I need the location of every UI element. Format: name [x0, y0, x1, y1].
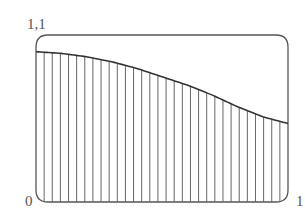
label-origin: 0 [25, 194, 33, 209]
vertical-lines [44, 52, 280, 202]
function-curve [36, 52, 288, 124]
diagram-canvas [0, 0, 305, 221]
label-x-end: 1 [296, 194, 304, 209]
label-top-left: 1,1 [27, 17, 46, 32]
rounded-frame [36, 35, 288, 202]
